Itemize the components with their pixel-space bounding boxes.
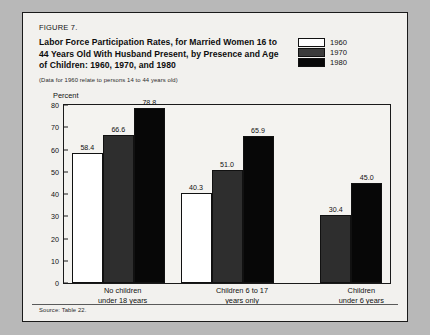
legend-swatch-1980-icon [298, 58, 325, 67]
legend-item-1980: 1980 [298, 57, 347, 67]
bar-value-label: 30.4 [329, 206, 343, 214]
bar-value-label: 58.4 [80, 144, 94, 152]
bar-group-1: 58.466.678.8 [64, 105, 173, 283]
bar-value-label: 45.0 [360, 174, 374, 182]
legend-label-1960: 1960 [330, 38, 347, 47]
bar-1980-group-3[interactable]: 45.0 [351, 183, 382, 283]
plot-area: 01020304050607080 58.466.678.840.351.065… [37, 104, 395, 284]
x-axis-label-1: No childrenunder 18 years [63, 286, 182, 305]
bar-value-label: 78.8 [142, 99, 156, 107]
legend-label-1970: 1970 [330, 48, 347, 57]
bar-1980-group-1[interactable]: 78.8 [134, 108, 165, 283]
bar-1970-group-2[interactable]: 51.0 [212, 170, 243, 283]
bar-1980-group-2[interactable]: 65.9 [243, 136, 274, 283]
y-tick-label-70: 70 [51, 123, 64, 132]
bar-groups: 58.466.678.840.351.065.930.445.0 [64, 105, 390, 283]
figure-title: Labor Force Participation Rates, for Mar… [39, 37, 289, 72]
source-divider [32, 304, 398, 305]
x-axis-labels: No childrenunder 18 yearsChildren 6 to 1… [63, 286, 421, 305]
legend-label-1980: 1980 [330, 58, 347, 67]
bar-1960-group-2[interactable]: 40.3 [181, 193, 212, 283]
bar-group-3: 30.445.0 [281, 105, 390, 283]
x-axis-label-2: Children 6 to 17years only [182, 286, 301, 305]
y-tick-label-20: 20 [51, 234, 64, 243]
legend-item-1970: 1970 [298, 47, 347, 57]
x-axis-label-line1: No children [63, 286, 182, 296]
bar-1970-group-1[interactable]: 66.6 [103, 135, 134, 283]
bar-group-2: 40.351.065.9 [173, 105, 282, 283]
figure-note: (Data for 1960 relate to persons 14 to 4… [39, 77, 178, 83]
legend-swatch-1970-icon [298, 48, 325, 57]
legend-item-1960: 1960 [298, 37, 347, 47]
y-tick-label-30: 30 [51, 212, 64, 221]
y-axis-unit-label: Percent [53, 91, 78, 100]
y-tick-label-10: 10 [51, 256, 64, 265]
bar-1970-group-3[interactable]: 30.4 [320, 215, 351, 283]
figure-frame: FIGURE 7. Labor Force Participation Rate… [22, 12, 408, 322]
x-axis-label-3: Childrenunder 6 years [302, 286, 421, 305]
source-note: Source: Table 22. [39, 307, 86, 313]
y-tick-label-40: 40 [51, 190, 64, 199]
y-tick-label-80: 80 [51, 101, 64, 110]
axis-frame: 01020304050607080 58.466.678.840.351.065… [63, 104, 391, 284]
bar-value-label: 40.3 [189, 184, 203, 192]
bar-1960-group-1[interactable]: 58.4 [72, 153, 103, 283]
y-tick-label-50: 50 [51, 167, 64, 176]
bar-value-label: 66.6 [111, 126, 125, 134]
legend-swatch-1960-icon [298, 38, 325, 47]
bar-value-label: 65.9 [251, 127, 265, 135]
x-axis-label-line1: Children [302, 286, 421, 296]
chart-legend: 1960 1970 1980 [298, 37, 347, 67]
figure-number: FIGURE 7. [39, 23, 77, 32]
y-tick-label-60: 60 [51, 145, 64, 154]
bar-value-label: 51.0 [220, 161, 234, 169]
x-axis-label-line1: Children 6 to 17 [182, 286, 301, 296]
